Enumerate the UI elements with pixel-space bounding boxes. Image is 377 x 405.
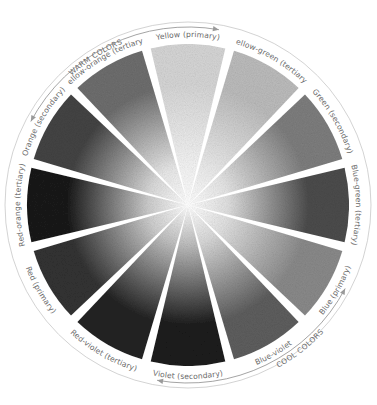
color-wheel-diagram: Yellow (primary)Yellow-green (tertiary)G… — [0, 0, 377, 405]
